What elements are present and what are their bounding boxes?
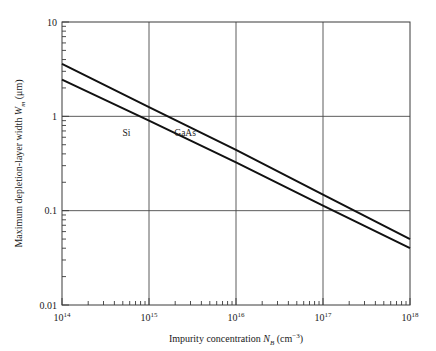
curve-label-gaas: GaAs (174, 128, 196, 138)
y-tick-label: 1 (52, 111, 57, 122)
chart-figure: GaAsSi 10141015101610171018 1010.10.01 I… (0, 0, 436, 351)
y-tick-label: 0.01 (40, 300, 58, 311)
y-tick-label: 10 (47, 17, 57, 28)
curve-label-si: Si (122, 128, 130, 138)
y-tick-label: 0.1 (45, 205, 58, 216)
chart-background (0, 0, 436, 351)
log-log-plot: GaAsSi 10141015101610171018 1010.10.01 I… (0, 0, 436, 351)
